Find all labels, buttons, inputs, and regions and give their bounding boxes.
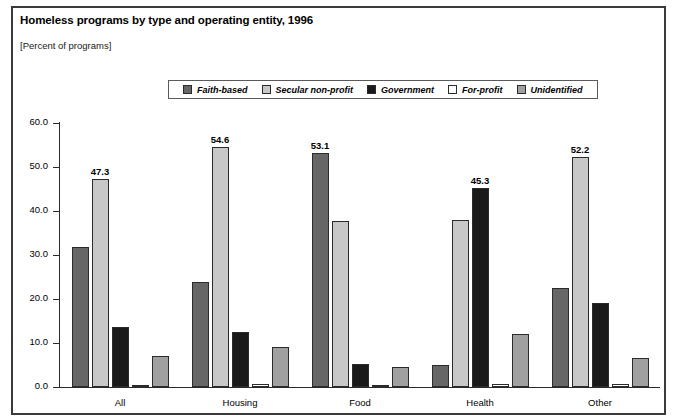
bar [392,367,409,387]
y-tick-label: 20.0 [0,292,48,303]
bar [232,332,249,387]
y-tick-label: 10.0 [0,336,48,347]
bar [132,385,149,387]
bar [112,327,129,387]
bar [632,358,649,387]
x-axis-line [59,387,660,388]
bar [372,385,389,387]
legend-item-label: Secular non-profit [276,85,354,95]
legend-item-label: For-profit [462,85,503,95]
legend-item: Government [367,85,434,95]
legend-item: For-profit [448,85,503,95]
legend-swatch-icon [262,85,271,94]
bar [72,247,89,387]
bar [452,220,469,387]
x-axis-label: All [60,397,180,408]
bar-group: 52.2 [540,123,660,387]
bar [192,282,209,387]
bar-value-label: 47.3 [91,166,110,177]
y-tick-mark [53,387,59,388]
legend-item: Unidentified [517,85,583,95]
y-tick-mark [53,255,59,256]
bar: 47.3 [92,179,109,387]
y-tick-mark [53,123,59,124]
y-axis-tick: 10.0 [0,343,60,344]
x-axis-label: Other [540,397,660,408]
legend-item-label: Unidentified [531,85,583,95]
legend-item: Faith-based [183,85,248,95]
y-tick-label: 30.0 [0,248,48,259]
y-axis-tick: 30.0 [0,255,60,256]
y-tick-label: 40.0 [0,204,48,215]
y-axis-tick: 60.0 [0,123,60,124]
chart-figure: Homeless programs by type and operating … [0,0,674,420]
legend-swatch-icon [183,85,192,94]
bar [332,221,349,387]
x-axis-label: Health [420,397,540,408]
x-axis-label: Food [300,397,420,408]
bar [432,365,449,387]
legend-item-label: Faith-based [197,85,248,95]
figure-subtitle: [Percent of programs] [20,40,111,51]
y-tick-mark [53,167,59,168]
y-axis-tick: 50.0 [0,167,60,168]
bar-group: 54.6 [180,123,300,387]
y-tick-label: 60.0 [0,116,48,127]
plot-area: 47.354.653.145.352.2 [60,123,660,387]
y-tick-mark [53,343,59,344]
y-tick-label: 0.0 [0,380,48,391]
y-tick-label: 50.0 [0,160,48,171]
bar: 53.1 [312,153,329,387]
y-tick-mark [53,211,59,212]
bar [272,347,289,387]
bar-group: 45.3 [420,123,540,387]
x-axis-label: Housing [180,397,300,408]
bar: 54.6 [212,147,229,387]
page-title: Homeless programs by type and operating … [20,14,313,26]
legend-swatch-icon [448,85,457,94]
bar [592,303,609,387]
y-axis-tick: 0.0 [0,387,60,388]
legend-item-label: Government [381,85,434,95]
y-axis-tick: 20.0 [0,299,60,300]
bar: 45.3 [472,188,489,387]
bar-value-label: 54.6 [211,134,230,145]
y-axis-tick: 40.0 [0,211,60,212]
bar [492,384,509,387]
legend-swatch-icon [367,85,376,94]
bar [612,384,629,387]
y-tick-mark [53,299,59,300]
bar-value-label: 45.3 [471,175,490,186]
bar-value-label: 52.2 [571,144,590,155]
chart-legend: Faith-basedSecular non-profitGovernmentF… [168,80,598,99]
bar [352,364,369,387]
bar [152,356,169,387]
bar-group: 53.1 [300,123,420,387]
bar [552,288,569,387]
legend-swatch-icon [517,85,526,94]
bar [512,334,529,387]
bar [252,384,269,387]
bar: 52.2 [572,157,589,387]
legend-item: Secular non-profit [262,85,354,95]
bar-value-label: 53.1 [311,140,330,151]
bar-group: 47.3 [60,123,180,387]
